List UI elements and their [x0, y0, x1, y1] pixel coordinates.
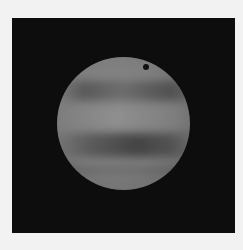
space-frame [12, 18, 235, 233]
cloud-band-south [57, 133, 190, 157]
cloud-band-north [57, 81, 190, 101]
cloud-band-faint [57, 165, 190, 175]
moon-shadow [143, 64, 149, 70]
planet [57, 57, 190, 190]
